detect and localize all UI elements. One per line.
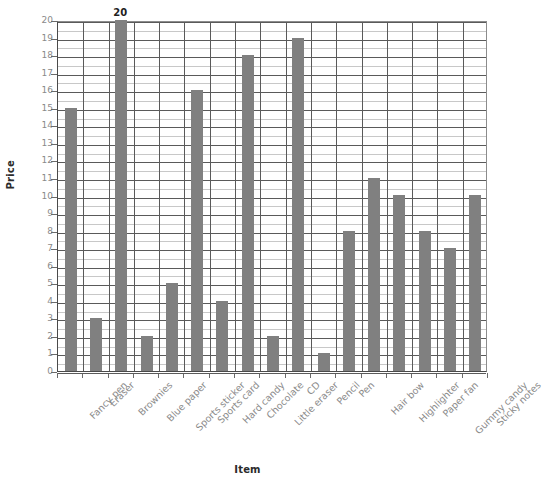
y-axis-tick-label: 7 — [31, 244, 53, 253]
bar-value-label: 20 — [106, 8, 134, 18]
x-axis-tick-mark — [209, 373, 210, 378]
bar — [216, 301, 228, 371]
y-axis-tick-label: 12 — [31, 156, 53, 165]
x-axis-tick-mark — [82, 373, 83, 378]
plot-area — [57, 21, 487, 372]
x-axis-tick-mark — [259, 373, 260, 378]
gridline-major — [58, 373, 486, 374]
bar — [343, 231, 355, 371]
y-axis-tick-label: 9 — [31, 209, 53, 218]
y-axis-tick-label: 17 — [31, 69, 53, 78]
y-axis-tick-label: 16 — [31, 86, 53, 95]
x-axis-tick-mark — [234, 373, 235, 378]
bar — [242, 55, 254, 371]
y-axis-tick-label: 1 — [31, 349, 53, 358]
y-axis-tick-label: 14 — [31, 121, 53, 130]
y-axis-tick-label: 10 — [31, 192, 53, 201]
bar — [90, 318, 102, 371]
x-axis-tick-mark — [361, 373, 362, 378]
y-axis-tick-label: 3 — [31, 314, 53, 323]
y-axis-tick-label: 13 — [31, 139, 53, 148]
bar — [191, 90, 203, 371]
y-axis-tick-label: 6 — [31, 262, 53, 271]
x-axis-tick-mark — [386, 373, 387, 378]
bar — [393, 195, 405, 371]
x-axis-tick-mark — [183, 373, 184, 378]
y-axis-tick-label: 11 — [31, 174, 53, 183]
y-axis-tick-label: 20 — [31, 16, 53, 25]
x-axis-tick-mark — [487, 373, 488, 378]
bar — [115, 20, 127, 371]
bar — [368, 178, 380, 371]
y-axis-tick-label: 2 — [31, 332, 53, 341]
x-axis-tick-mark — [335, 373, 336, 378]
x-axis-tick-mark — [57, 373, 58, 378]
bar — [469, 195, 481, 371]
bar — [267, 336, 279, 371]
y-axis-tick-label: 0 — [31, 367, 53, 376]
bar — [444, 248, 456, 371]
y-axis-tick-label: 15 — [31, 104, 53, 113]
bar — [419, 231, 431, 371]
y-axis-tick-label: 8 — [31, 227, 53, 236]
x-axis-category-label: Eraser — [108, 380, 136, 408]
y-axis-tick-label: 4 — [31, 297, 53, 306]
y-axis-tick-label: 19 — [31, 34, 53, 43]
x-axis-category-label: Pen — [357, 380, 376, 399]
bars — [58, 22, 486, 371]
x-axis-tick-mark — [310, 373, 311, 378]
bar — [141, 336, 153, 371]
x-axis-tick-mark — [108, 373, 109, 378]
x-axis-tick-mark — [158, 373, 159, 378]
y-axis-tick-label: 5 — [31, 279, 53, 288]
bar — [65, 108, 77, 371]
x-axis-tick-mark — [436, 373, 437, 378]
bar — [292, 38, 304, 371]
y-axis-tick-label: 18 — [31, 51, 53, 60]
bar — [166, 283, 178, 371]
bar — [318, 353, 330, 371]
y-axis-title: Price — [5, 174, 16, 190]
x-axis-tick-mark — [411, 373, 412, 378]
x-axis-title: Item — [0, 464, 495, 475]
x-axis-tick-mark — [285, 373, 286, 378]
x-axis-tick-mark — [462, 373, 463, 378]
x-axis-tick-mark — [133, 373, 134, 378]
